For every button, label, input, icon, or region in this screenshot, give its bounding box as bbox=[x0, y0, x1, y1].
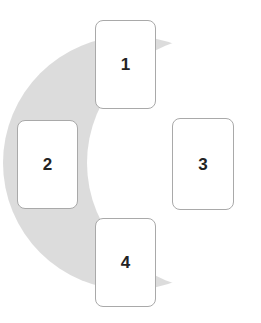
card-label: 3 bbox=[198, 155, 207, 172]
numbered-card-4[interactable]: 4 bbox=[95, 218, 156, 307]
card-label: 2 bbox=[43, 156, 52, 173]
card-label: 4 bbox=[121, 254, 130, 271]
numbered-card-3[interactable]: 3 bbox=[172, 118, 234, 210]
numbered-card-1[interactable]: 1 bbox=[95, 20, 156, 109]
canvas: 1 2 3 4 bbox=[0, 0, 261, 323]
numbered-card-2[interactable]: 2 bbox=[17, 120, 78, 209]
card-label: 1 bbox=[121, 56, 130, 73]
